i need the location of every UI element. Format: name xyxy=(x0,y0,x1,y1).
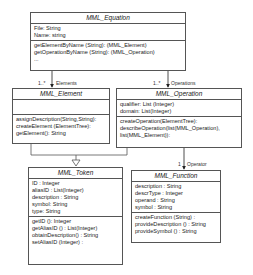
class-title: MML_Function xyxy=(132,171,220,182)
class-title: MML_Operation xyxy=(117,89,241,100)
method: list(MML_Element)): xyxy=(120,132,238,139)
method: createFunction (String) : xyxy=(135,214,217,221)
class-mml-token: MML_Token ID : Integer aliasID : List(In… xyxy=(28,167,123,265)
method: assignDescription(String,String): xyxy=(16,116,106,123)
operations-multiplicity: 1..* xyxy=(153,80,161,86)
attribute: description : String xyxy=(135,183,217,190)
attribute: domain: List(Integer) xyxy=(120,108,238,115)
elements-role-label: Elements xyxy=(56,80,77,86)
operations-role-label: Operations xyxy=(171,80,195,86)
class-mml-equation: MML_Equation File: String Name: string g… xyxy=(30,12,186,71)
method: describeOperation(list(MML_Operation), xyxy=(120,125,238,132)
attributes-section: qualifier: List (Integer) domain: List(I… xyxy=(117,100,241,116)
attribute: File: String xyxy=(34,25,182,32)
attribute: description : String xyxy=(32,194,119,201)
methods-section: createFunction (String) : provideDescrip… xyxy=(132,212,220,236)
class-mml-element: MML_Element assignDescription(String,Str… xyxy=(12,88,110,144)
methods-section: createOperation(ElementTree): describeOp… xyxy=(117,116,241,140)
method: getAliasID () : List(Integer) xyxy=(32,225,119,232)
method: getOperationByName (String): (MML_Operat… xyxy=(34,49,182,56)
method: provideSymbol () : String xyxy=(135,228,217,235)
method: setAliasID (Integer) : xyxy=(32,239,119,246)
method: getID (): Integer xyxy=(32,218,119,225)
method: createElement (ElementTree): xyxy=(16,123,106,130)
class-title: MML_Element xyxy=(13,89,109,100)
attribute: ID : Integer xyxy=(32,180,119,187)
attribute: aliasID : List(Integer) xyxy=(32,187,119,194)
method: provideDescription () : String xyxy=(135,221,217,228)
attributes-section: ID : Integer aliasID : List(Integer) des… xyxy=(29,179,122,216)
method: ... xyxy=(34,56,182,63)
operator-role-label: Operator xyxy=(187,161,207,167)
method: getElementByName (String): (MML_Element) xyxy=(34,42,182,49)
attribute: symbol : String xyxy=(135,204,217,211)
methods-section: getElementByName (String): (MML_Element)… xyxy=(31,40,185,64)
attribute: descrType : Integer xyxy=(135,190,217,197)
class-mml-operation: MML_Operation qualifier: List (Integer) … xyxy=(116,88,242,148)
method: createOperation(ElementTree): xyxy=(120,118,238,125)
attribute: type: String xyxy=(32,208,119,215)
attribute: symbol: String xyxy=(32,201,119,208)
attributes-section: File: String Name: string xyxy=(31,24,185,40)
method: getElement(): String xyxy=(16,130,106,137)
attribute: Name: string xyxy=(34,32,182,39)
attributes-section: description : String descrType : Integer… xyxy=(132,182,220,212)
attributes-section xyxy=(13,100,109,114)
method: obtainDescription() : String xyxy=(32,232,119,239)
class-title: MML_Token xyxy=(29,168,122,179)
class-mml-function: MML_Function description : String descrT… xyxy=(131,170,221,243)
elements-multiplicity: 1..* xyxy=(38,80,46,86)
operator-multiplicity: 1 xyxy=(178,161,181,167)
attribute: operand : String xyxy=(135,197,217,204)
class-title: MML_Equation xyxy=(31,13,185,24)
methods-section: getID (): Integer getAliasID () : List(I… xyxy=(29,216,122,247)
attribute: qualifier: List (Integer) xyxy=(120,101,238,108)
methods-section: assignDescription(String,String): create… xyxy=(13,114,109,138)
